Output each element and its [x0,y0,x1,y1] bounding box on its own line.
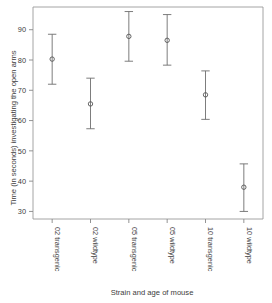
x-tick-label: 10 transgenic [206,227,215,272]
y-tick-label: 60 [18,116,26,125]
x-tick-label: 02 transgenic [53,227,62,272]
data-series [48,12,248,212]
y-axis-title: Time (in seconds) investigating the open… [9,50,18,205]
y-tick-label: 40 [18,177,26,186]
data-point-group [201,71,209,119]
x-axis-title: Strain and age of mouse [111,288,194,297]
y-tick-label: 50 [18,147,26,156]
y-tick-label: 70 [18,86,26,95]
y-axis-tick-labels: 30405060708090 [18,25,26,216]
y-tick-label: 90 [18,25,26,34]
x-tick-label: 10 wildtype [245,227,254,264]
x-tick-label: 02 wildtype [91,227,100,264]
panel-border [33,7,263,219]
data-point-group [125,12,133,62]
plot-panel [33,7,263,219]
x-axis-tick-labels: 02 transgenic02 wildtype05 transgenic05 … [53,227,254,272]
chart-figure: 30405060708090 02 transgenic02 wildtype0… [0,0,272,303]
x-tick-label: 05 wildtype [168,227,177,264]
data-point-group [163,15,171,66]
x-tick-label: 05 transgenic [130,227,139,272]
y-axis-ticks [29,30,33,212]
data-point-group [240,164,248,212]
data-point-group [48,34,56,84]
y-tick-label: 80 [18,56,26,65]
y-tick-label: 30 [18,207,26,216]
errorbar-plot: 30405060708090 02 transgenic02 wildtype0… [0,0,272,303]
data-point-group [86,78,94,129]
x-axis-ticks [52,219,244,223]
